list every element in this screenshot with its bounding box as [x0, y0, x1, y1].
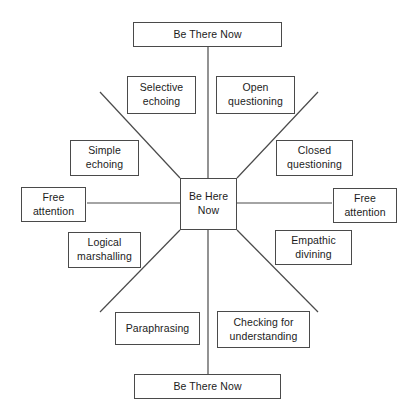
- node-open-questioning[interactable]: Open questioning: [216, 76, 295, 114]
- node-label: Selective echoing: [140, 81, 184, 109]
- node-selective-echoing[interactable]: Selective echoing: [127, 76, 196, 114]
- node-label: Checking for understanding: [230, 316, 298, 344]
- node-label: Be There Now: [173, 28, 241, 42]
- node-simple-echoing[interactable]: Simple echoing: [70, 140, 139, 176]
- node-label: Empathic divining: [291, 234, 336, 262]
- node-label: Free attention: [33, 191, 74, 219]
- node-label: Paraphrasing: [126, 322, 190, 336]
- node-top-be-there-now[interactable]: Be There Now: [133, 22, 282, 47]
- node-checking-for-understanding[interactable]: Checking for understanding: [217, 311, 310, 348]
- node-label: Simple echoing: [86, 144, 123, 172]
- node-right-free-attention[interactable]: Free attention: [333, 188, 397, 223]
- node-label: Open questioning: [228, 81, 283, 109]
- node-label: Be Here Now: [189, 190, 228, 218]
- node-bottom-be-there-now[interactable]: Be There Now: [134, 374, 281, 399]
- node-closed-questioning[interactable]: Closed questioning: [276, 140, 353, 176]
- node-label: Closed questioning: [287, 144, 342, 172]
- node-paraphrasing[interactable]: Paraphrasing: [115, 312, 200, 345]
- node-be-here-now-center[interactable]: Be Here Now: [180, 178, 237, 230]
- node-label: Free attention: [344, 192, 385, 220]
- node-left-free-attention[interactable]: Free attention: [21, 187, 86, 222]
- node-label: Be There Now: [173, 380, 241, 394]
- node-logical-marshalling[interactable]: Logical marshalling: [68, 232, 141, 268]
- diagram-canvas: Be There Now Be There Now Free attention…: [0, 0, 417, 417]
- node-label: Logical marshalling: [77, 236, 132, 264]
- node-empathic-divining[interactable]: Empathic divining: [275, 230, 352, 265]
